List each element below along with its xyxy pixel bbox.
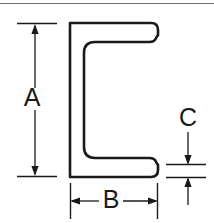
dimension-a-group: A: [17, 24, 57, 177]
dimension-c-label: C: [179, 103, 197, 131]
technical-drawing-canvas: A B C: [0, 0, 214, 223]
dimension-b-label: B: [103, 185, 120, 213]
dimension-a-arrowhead-top: [31, 24, 38, 34]
dimension-c-arrowhead-bottom: [184, 177, 191, 187]
dimension-c-arrowhead-top: [184, 155, 191, 165]
c-channel-drawing: A B C: [0, 0, 214, 223]
dimension-b-arrowhead-left: [70, 197, 80, 204]
dimension-a-arrowhead-bottom: [31, 166, 38, 176]
dimension-b-group: B: [70, 183, 158, 219]
dimension-b-arrowhead-right: [148, 197, 158, 204]
channel-profile-outline: [70, 23, 158, 177]
dimension-c-group: C: [166, 103, 206, 205]
dimension-a-label: A: [24, 83, 41, 111]
